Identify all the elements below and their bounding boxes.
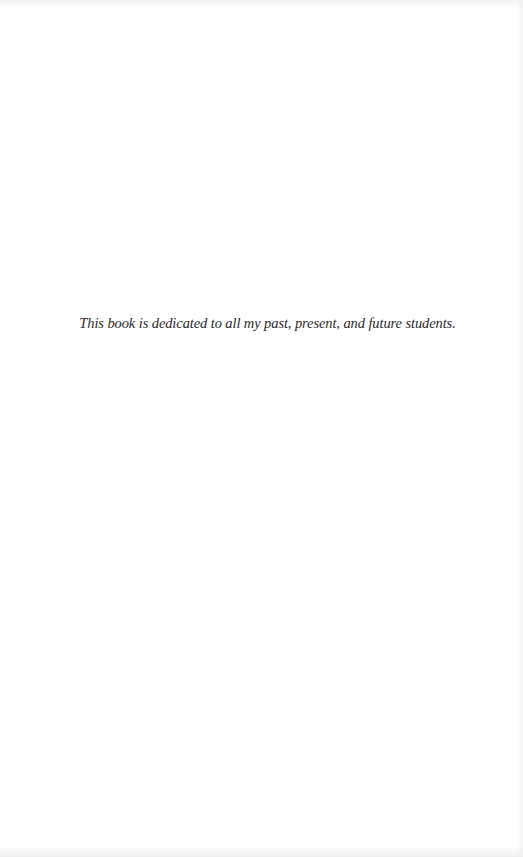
scan-edge-right	[517, 0, 523, 857]
scan-edge-top	[0, 0, 523, 8]
scan-edge-bottom	[0, 847, 523, 857]
book-page: This book is dedicated to all my past, p…	[0, 0, 523, 857]
dedication-text: This book is dedicated to all my past, p…	[0, 315, 523, 332]
